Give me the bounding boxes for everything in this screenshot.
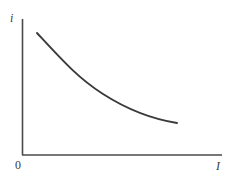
origin-label: 0: [15, 159, 21, 171]
demand-curve: [37, 33, 177, 123]
y-axis-label: i: [10, 12, 13, 24]
x-axis-label: I: [216, 160, 220, 172]
figure-container: i I 0: [0, 0, 235, 180]
chart-plot-area: [0, 0, 235, 180]
